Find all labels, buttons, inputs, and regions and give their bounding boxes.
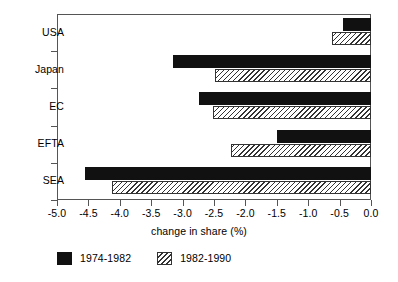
bar-japan-series-1 bbox=[173, 55, 371, 68]
y-axis-label-japan: Japan bbox=[35, 64, 64, 75]
bar-ec-series-1 bbox=[199, 92, 371, 105]
x-axis-tick-label: -0.5 bbox=[330, 207, 349, 219]
y-axis-tick bbox=[51, 163, 57, 164]
y-axis-tick bbox=[51, 51, 57, 52]
x-axis-title: change in share (%) bbox=[0, 225, 398, 237]
x-axis-tick-label: -2.0 bbox=[236, 207, 255, 219]
legend-label-2: 1982-1990 bbox=[180, 252, 231, 264]
y-axis-label-ec: EC bbox=[49, 101, 64, 112]
bar-efta-series-2 bbox=[231, 144, 371, 157]
y-axis-label-usa: USA bbox=[42, 27, 64, 38]
x-axis-tick-label: -5.0 bbox=[48, 207, 67, 219]
x-axis-tick bbox=[57, 200, 58, 206]
bar-efta-series-1 bbox=[277, 130, 371, 143]
x-axis-tick-label: -4.0 bbox=[111, 207, 130, 219]
x-axis-tick-label: -3.0 bbox=[173, 207, 192, 219]
x-axis-tick bbox=[245, 200, 246, 206]
y-axis-tick bbox=[51, 126, 57, 127]
x-axis-tick-label: -4.5 bbox=[79, 207, 98, 219]
bar-usa-series-2 bbox=[332, 32, 371, 45]
bar-usa-series-1 bbox=[343, 18, 371, 31]
legend-item-2: 1982-1990 bbox=[157, 252, 231, 265]
bars-layer bbox=[57, 14, 371, 200]
y-axis-label-sea: SEA bbox=[43, 175, 64, 186]
y-axis-label-efta: EFTA bbox=[38, 138, 64, 149]
x-axis-tick bbox=[120, 200, 121, 206]
x-axis-tick bbox=[183, 200, 184, 206]
x-axis-tick-label: -3.5 bbox=[142, 207, 161, 219]
bar-group bbox=[57, 88, 371, 125]
x-axis-tick-label: -2.5 bbox=[205, 207, 224, 219]
x-axis-tick-label: -1.5 bbox=[268, 207, 287, 219]
bar-group bbox=[57, 51, 371, 88]
chart-legend: 1974-19821982-1990 bbox=[57, 250, 257, 266]
legend-label-1: 1974-1982 bbox=[80, 252, 131, 264]
y-axis-tick bbox=[51, 88, 57, 89]
hatched-swatch bbox=[157, 252, 172, 265]
x-axis-tick bbox=[371, 200, 372, 206]
bar-group bbox=[57, 126, 371, 163]
bar-chart: USAJapanECEFTASEA -5.0-4.5-4.0-3.5-3.0-2… bbox=[0, 0, 398, 282]
bar-group bbox=[57, 14, 371, 51]
x-axis-tick bbox=[340, 200, 341, 206]
x-axis-tick bbox=[151, 200, 152, 206]
x-axis-tick bbox=[214, 200, 215, 206]
x-axis-tick-label: 0.0 bbox=[364, 207, 379, 219]
x-axis-tick bbox=[308, 200, 309, 206]
x-axis-tick-label: -1.0 bbox=[299, 207, 318, 219]
bar-sea-series-1 bbox=[85, 167, 371, 180]
bar-ec-series-2 bbox=[213, 106, 371, 119]
x-axis-tick bbox=[88, 200, 89, 206]
legend-item-1: 1974-1982 bbox=[57, 252, 131, 265]
bar-group bbox=[57, 163, 371, 200]
x-axis-tick bbox=[277, 200, 278, 206]
bar-japan-series-2 bbox=[215, 69, 371, 82]
solid-black-swatch bbox=[57, 252, 72, 265]
bar-sea-series-2 bbox=[112, 181, 371, 194]
